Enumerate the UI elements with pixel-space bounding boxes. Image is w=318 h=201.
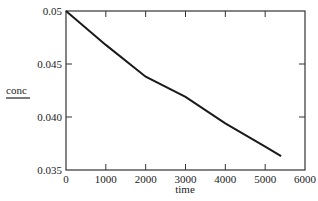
x-tick-label: 0 bbox=[63, 173, 69, 185]
chart: 0100020003000400050006000 0.0350.0400.04… bbox=[0, 0, 318, 201]
plot-frame bbox=[66, 11, 305, 170]
x-axis-ticks: 0100020003000400050006000 bbox=[63, 11, 316, 185]
x-tick-label: 6000 bbox=[294, 173, 317, 185]
y-tick-label: 0.035 bbox=[37, 164, 62, 176]
x-tick-label: 4000 bbox=[214, 173, 237, 185]
y-tick-label: 0.040 bbox=[37, 111, 62, 123]
conc-line bbox=[66, 11, 281, 156]
y-axis-label: conc bbox=[6, 84, 27, 96]
y-tick-label: 0.05 bbox=[43, 5, 63, 17]
x-axis-label: time bbox=[175, 183, 195, 195]
x-tick-label: 2000 bbox=[135, 173, 158, 185]
x-tick-label: 5000 bbox=[254, 173, 277, 185]
x-tick-label: 1000 bbox=[95, 173, 118, 185]
y-tick-label: 0.045 bbox=[37, 58, 62, 70]
